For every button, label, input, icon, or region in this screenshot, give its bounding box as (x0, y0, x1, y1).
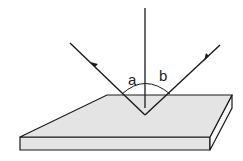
plate-top-face (20, 95, 232, 137)
plate-front-face (20, 137, 210, 150)
reflection-diagram: a b (0, 0, 243, 161)
incident-ray-arrow-icon (204, 53, 209, 61)
angle-a-label: a (128, 71, 137, 88)
angle-b-label: b (159, 67, 167, 84)
